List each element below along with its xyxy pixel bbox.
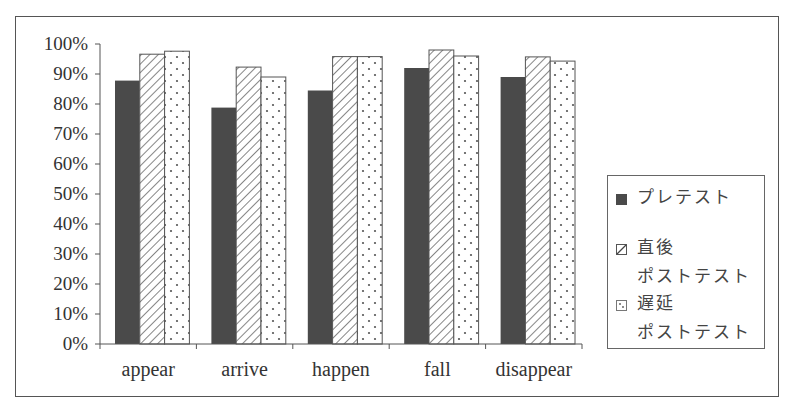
bar-arrive-0: [211, 108, 236, 344]
y-axis: 0%10%20%30%40%50%60%70%80%90%100%: [44, 33, 100, 354]
y-tick-label: 100%: [44, 33, 89, 54]
legend-label-immediate: 直後: [637, 233, 751, 262]
legend-item-delayed-posttest: 遅延 ポストテスト: [616, 294, 751, 347]
stripe-swatch-icon: [616, 244, 627, 255]
x-category-label: happen: [312, 358, 370, 381]
bar-fall-1: [429, 50, 454, 344]
y-tick-label: 70%: [53, 123, 88, 144]
legend-item-immediate-posttest: 直後 ポストテスト: [616, 238, 751, 291]
y-tick-label: 60%: [53, 153, 88, 174]
bar-arrive-2: [261, 77, 286, 344]
x-axis: appeararrivehappenfalldisappear: [100, 344, 582, 381]
y-tick-label: 10%: [53, 303, 88, 324]
bar-disappear-2: [550, 61, 575, 344]
bar-appear-1: [140, 54, 165, 344]
bar-disappear-1: [525, 57, 550, 344]
bar-fall-2: [454, 56, 479, 344]
bar-disappear-0: [501, 77, 526, 344]
x-category-label: arrive: [221, 358, 268, 380]
bar-happen-0: [308, 91, 333, 345]
legend-item-pretest: プレテスト: [616, 188, 732, 212]
legend: プレテスト 直後 ポストテスト 遅延 ポストテスト: [607, 175, 765, 349]
x-category-label: appear: [122, 358, 176, 381]
bar-fall-0: [404, 68, 429, 344]
y-tick-label: 40%: [53, 213, 88, 234]
y-tick-label: 90%: [53, 63, 88, 84]
y-tick-label: 80%: [53, 93, 88, 114]
bar-appear-2: [165, 51, 190, 344]
x-category-label: disappear: [495, 358, 572, 381]
solid-swatch-icon: [616, 194, 627, 205]
bar-happen-2: [357, 57, 382, 344]
bar-appear-0: [115, 81, 140, 344]
bar-happen-1: [333, 57, 358, 344]
y-tick-label: 20%: [53, 273, 88, 294]
x-category-label: fall: [424, 358, 451, 380]
bars: [115, 50, 575, 344]
y-tick-label: 0%: [63, 333, 89, 354]
legend-label-immediate-posttest: ポストテスト: [637, 262, 751, 291]
y-tick-label: 30%: [53, 243, 88, 264]
legend-label-pretest: プレテスト: [637, 183, 732, 212]
bar-arrive-1: [236, 67, 261, 344]
y-tick-label: 50%: [53, 183, 88, 204]
legend-label-delayed: 遅延: [637, 289, 751, 318]
legend-label-delayed-posttest: ポストテスト: [637, 318, 751, 347]
dots-swatch-icon: [616, 300, 627, 311]
